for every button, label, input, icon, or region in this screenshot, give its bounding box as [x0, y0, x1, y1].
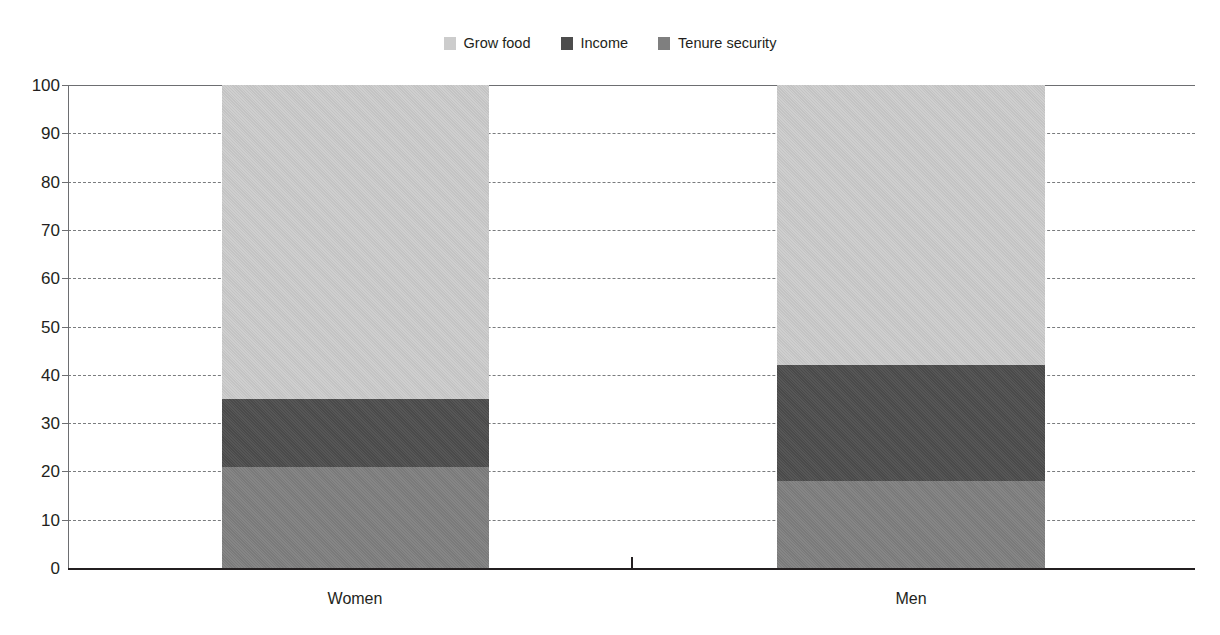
y-tick-mark-50	[62, 327, 69, 328]
y-tick-label-50: 50	[14, 318, 60, 335]
y-tick-label-40: 40	[14, 366, 60, 383]
bar-segment-men-income[interactable]	[777, 365, 1045, 481]
chart-title	[0, 0, 1220, 3]
y-tick-label-60: 60	[14, 270, 60, 287]
legend-item-income[interactable]: Income	[561, 35, 629, 51]
x-axis-baseline	[68, 568, 1195, 570]
x-tick-label-men: Men	[895, 590, 926, 608]
y-tick-mark-30	[62, 423, 69, 424]
plot-area	[68, 85, 1195, 568]
y-tick-mark-90	[62, 133, 69, 134]
y-tick-label-10: 10	[14, 511, 60, 528]
y-tick-label-30: 30	[14, 415, 60, 432]
y-tick-label-100: 100	[14, 77, 60, 94]
y-tick-mark-80	[62, 182, 69, 183]
legend-swatch-income	[561, 37, 573, 50]
legend-swatch-grow-food	[444, 37, 456, 50]
y-tick-mark-70	[62, 230, 69, 231]
y-tick-mark-60	[62, 278, 69, 279]
legend-item-grow-food[interactable]: Grow food	[444, 35, 531, 51]
bar-men[interactable]	[777, 85, 1045, 568]
legend-label-income: Income	[581, 35, 629, 51]
x-axis-center-tick	[631, 557, 633, 568]
chart-legend: Grow food Income Tenure security	[0, 34, 1220, 52]
legend-label-tenure-security: Tenure security	[678, 35, 776, 51]
x-tick-label-women: Women	[328, 590, 383, 608]
y-tick-mark-100	[62, 85, 69, 86]
legend-item-tenure-security[interactable]: Tenure security	[658, 35, 776, 51]
bar-segment-men-grow-food[interactable]	[777, 85, 1045, 365]
y-tick-mark-10	[62, 520, 69, 521]
y-tick-label-70: 70	[14, 221, 60, 238]
y-tick-label-90: 90	[14, 125, 60, 142]
y-tick-label-80: 80	[14, 173, 60, 190]
bar-segment-women-income[interactable]	[222, 399, 489, 467]
y-tick-label-0: 0	[14, 560, 60, 577]
bar-segment-women-tenure-security[interactable]	[222, 467, 489, 568]
y-tick-mark-20	[62, 471, 69, 472]
y-axis-labels: 100 90 80 70 60 50 40 30 20 10 0	[8, 85, 60, 568]
legend-swatch-tenure-security	[658, 37, 670, 50]
chart-container: Grow food Income Tenure security 100 90 …	[0, 0, 1220, 635]
legend-label-grow-food: Grow food	[464, 35, 531, 51]
y-tick-label-20: 20	[14, 463, 60, 480]
bar-segment-women-grow-food[interactable]	[222, 85, 489, 399]
bar-segment-men-tenure-security[interactable]	[777, 481, 1045, 568]
y-tick-mark-40	[62, 375, 69, 376]
bar-women[interactable]	[222, 85, 489, 568]
